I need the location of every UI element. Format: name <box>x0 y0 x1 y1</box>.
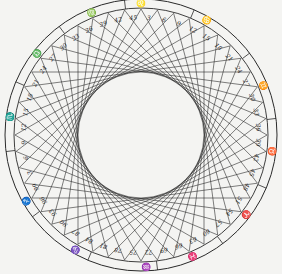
number-label: 3 <box>25 170 33 176</box>
number-label: 36 <box>255 123 263 131</box>
zodiac-glyph: ♒ <box>140 262 150 272</box>
number-label: 81 <box>98 242 107 251</box>
zodiac-glyph: ♑ <box>68 243 82 257</box>
number-label: 24 <box>37 64 48 75</box>
number-label: 18 <box>25 92 34 102</box>
number-label: 84 <box>84 236 94 246</box>
number-label: 33 <box>70 32 80 42</box>
inner-void-circle <box>78 72 204 198</box>
number-label: 42 <box>252 153 261 163</box>
number-label: 9 <box>176 19 182 27</box>
zodiac-glyph: ♋ <box>200 13 214 27</box>
number-label: 27 <box>242 77 252 88</box>
number-label: 69 <box>159 246 168 254</box>
number-label: 87 <box>70 228 80 238</box>
sector-divider <box>88 252 92 260</box>
number-label: 12 <box>20 123 28 131</box>
number-label: 15 <box>21 107 29 116</box>
number-label: 15 <box>201 32 211 42</box>
number-label: 6 <box>161 16 166 24</box>
number-label: 3 <box>147 14 151 21</box>
number-label: 75 <box>129 249 137 257</box>
number-label: 36 <box>84 24 94 34</box>
sector-divider <box>156 261 157 270</box>
sector-divider <box>6 150 15 151</box>
number-label: 45 <box>128 14 137 22</box>
number-label: 33 <box>252 108 260 117</box>
sector-divider <box>267 118 276 119</box>
zodiac-glyph: ♉ <box>267 146 278 157</box>
zodiac-glyph: ♌ <box>136 0 146 8</box>
sector-divider <box>191 10 195 18</box>
sector-divider <box>258 185 266 189</box>
number-label: 12 <box>188 24 198 34</box>
zodiac-glyph: ♈ <box>240 208 254 222</box>
number-label: 6 <box>21 155 29 160</box>
number-label: 39 <box>255 139 263 147</box>
number-label: 78 <box>113 246 122 254</box>
number-label: 72 <box>144 249 152 257</box>
number-label: 9 <box>20 140 27 144</box>
zodiac-glyph: ♐ <box>19 194 33 208</box>
number-label: 45 <box>248 167 257 178</box>
number-label: 42 <box>113 15 123 24</box>
sector-divider <box>242 53 249 58</box>
zodiac-glyph: ♓ <box>186 250 199 263</box>
sector-divider <box>59 26 64 33</box>
zodiac-chord-diagram: 3691215182124273033363942454851545760636… <box>0 0 282 274</box>
number-label: 21 <box>30 78 40 89</box>
sector-divider <box>16 82 24 86</box>
number-label: 51 <box>234 195 244 205</box>
zodiac-glyph: ♏ <box>4 111 15 122</box>
sector-divider <box>217 236 222 243</box>
number-label: 99 <box>30 182 40 192</box>
number-label: 60 <box>201 228 211 238</box>
number-label: 48 <box>242 181 252 192</box>
number-label: 21 <box>224 51 235 62</box>
number-label: 96 <box>38 195 48 205</box>
number-label: 63 <box>188 236 198 246</box>
sector-divider <box>124 0 125 9</box>
sector-divider <box>32 211 39 216</box>
